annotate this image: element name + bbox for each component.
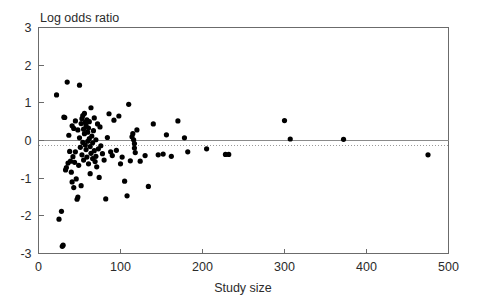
data-point <box>84 154 89 159</box>
data-point <box>98 143 103 148</box>
x-tick-label: 300 <box>274 260 295 274</box>
data-point <box>88 171 93 176</box>
data-point <box>87 119 92 124</box>
funnel-plot-figure: 0100200300400500 -3-2-10123 Log odds rat… <box>0 0 477 303</box>
data-point <box>114 148 119 153</box>
data-point <box>103 196 108 201</box>
data-point <box>182 135 187 140</box>
data-point <box>97 175 102 180</box>
x-tick-label: 400 <box>356 260 377 274</box>
data-point <box>116 113 121 118</box>
data-point <box>146 184 151 189</box>
data-point <box>161 151 166 156</box>
data-point <box>126 102 131 107</box>
data-point <box>70 154 75 159</box>
data-point <box>92 115 97 120</box>
x-tick-label: 200 <box>192 260 213 274</box>
data-point <box>92 159 97 164</box>
x-tick-label: 100 <box>110 260 131 274</box>
y-tick-label: -3 <box>20 247 31 261</box>
data-point <box>341 137 346 142</box>
data-point <box>120 154 125 159</box>
data-point <box>122 179 127 184</box>
data-point <box>185 149 190 154</box>
y-axis-title: Log odds ratio <box>40 11 119 25</box>
y-axis-tick-labels: -3-2-10123 <box>20 21 31 261</box>
data-point <box>88 105 93 110</box>
data-point <box>71 185 76 190</box>
data-point <box>164 132 169 137</box>
data-point <box>89 133 94 138</box>
data-point <box>77 135 82 140</box>
data-point <box>78 145 83 150</box>
data-point <box>76 163 81 168</box>
data-point <box>118 161 123 166</box>
data-point <box>93 137 98 142</box>
data-point <box>91 128 96 133</box>
data-point <box>204 146 209 151</box>
data-point <box>133 150 138 155</box>
data-point <box>282 118 287 123</box>
data-point <box>151 121 156 126</box>
data-point <box>67 149 72 154</box>
data-point <box>75 127 80 132</box>
data-point <box>156 152 161 157</box>
data-point <box>175 118 180 123</box>
data-point <box>132 141 137 146</box>
data-point <box>169 154 174 159</box>
data-point <box>110 153 115 158</box>
data-point <box>79 152 84 157</box>
data-point <box>69 170 74 175</box>
data-point <box>74 176 79 181</box>
y-tick-label: -1 <box>20 172 31 186</box>
data-point <box>61 243 66 248</box>
data-point <box>86 125 91 130</box>
data-point <box>93 154 98 159</box>
data-point <box>105 135 110 140</box>
y-tick-label: 1 <box>25 96 32 110</box>
data-point <box>79 183 84 188</box>
data-point <box>82 111 87 116</box>
data-point <box>128 158 133 163</box>
y-tick-label: 0 <box>25 134 32 148</box>
y-tick-label: -2 <box>20 209 31 223</box>
data-point <box>62 115 67 120</box>
data-point <box>106 111 111 116</box>
y-tick-label: 3 <box>25 21 32 35</box>
y-tick-label: 2 <box>25 59 32 73</box>
data-point <box>73 118 78 123</box>
data-point <box>59 209 64 214</box>
data-point <box>102 157 107 162</box>
data-point <box>138 159 143 164</box>
data-point <box>111 118 116 123</box>
data-point <box>288 136 293 141</box>
data-point <box>124 193 129 198</box>
data-point <box>56 217 61 222</box>
data-point <box>94 164 99 169</box>
data-point <box>66 133 71 138</box>
data-point <box>226 152 231 157</box>
data-point <box>97 124 102 129</box>
data-point <box>425 152 430 157</box>
x-tick-label: 0 <box>35 260 42 274</box>
x-axis-ticks <box>39 249 449 254</box>
data-point <box>143 153 148 158</box>
x-tick-label: 500 <box>438 260 459 274</box>
data-point <box>132 145 137 150</box>
data-point <box>134 127 139 132</box>
data-point <box>86 161 91 166</box>
plot-canvas: 0100200300400500 -3-2-10123 Log odds rat… <box>0 0 477 303</box>
data-point <box>75 194 80 199</box>
scatter-points-group <box>54 80 431 249</box>
x-axis-tick-labels: 0100200300400500 <box>35 260 459 274</box>
data-point <box>130 131 135 136</box>
data-point <box>54 92 59 97</box>
data-point <box>65 80 70 85</box>
x-axis-title: Study size <box>214 281 272 295</box>
data-point <box>64 165 69 170</box>
data-point <box>73 149 78 154</box>
y-axis-ticks <box>39 28 44 254</box>
data-point <box>77 83 82 88</box>
data-point <box>100 151 105 156</box>
